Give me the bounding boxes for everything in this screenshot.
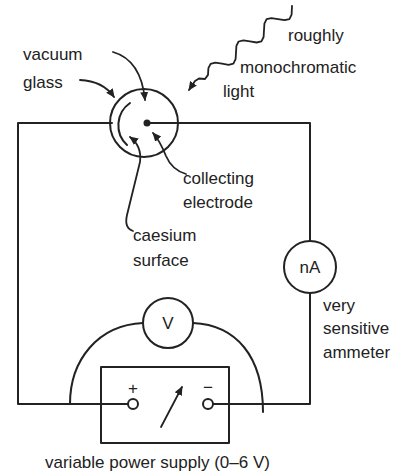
label-light-line1: roughly [288, 26, 344, 45]
positive-sign: + [128, 379, 138, 398]
label-collecting-line2: electrode [183, 193, 253, 212]
glass-pointer-arrow [80, 80, 114, 97]
caesium-pointer-arrow [126, 137, 140, 231]
label-ammeter-line1: very [323, 296, 356, 315]
label-caesium-line1: caesium [133, 226, 196, 245]
label-ammeter-line3: ammeter [323, 343, 390, 362]
wire-top-left [18, 123, 128, 404]
label-power-supply: variable power supply (0–6 V) [45, 453, 270, 472]
label-glass: glass [23, 73, 63, 92]
positive-terminal-icon [128, 399, 138, 409]
negative-terminal-icon [203, 399, 213, 409]
collecting-electrode-dot [144, 120, 151, 127]
label-light-line3: light [223, 82, 254, 101]
voltmeter-symbol: V [162, 314, 174, 333]
variable-adjust-arrow-icon [161, 387, 182, 427]
caesium-cathode-arc [118, 103, 130, 145]
light-wave-icon [189, 6, 292, 90]
label-light-line2: monochromatic [240, 58, 357, 77]
label-vacuum: vacuum [23, 45, 83, 64]
voltmeter: V [143, 298, 193, 348]
label-collecting-line1: collecting [183, 169, 254, 188]
negative-sign: − [203, 378, 213, 397]
label-caesium-line2: surface [133, 251, 189, 270]
ammeter-symbol: nA [300, 258, 321, 277]
ammeter: nA [284, 241, 336, 293]
label-ammeter-line2: sensitive [323, 319, 389, 338]
photoelectric-circuit-diagram: nA V + − vacuum glass roughly monochroma… [0, 0, 407, 474]
